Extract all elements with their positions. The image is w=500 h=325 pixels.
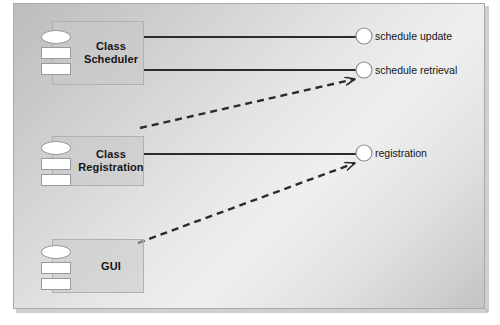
component-gui[interactable]: GUI <box>52 239 144 293</box>
component-icon-ellipse <box>41 141 71 155</box>
component-class-registration[interactable]: Class Registration <box>52 136 144 186</box>
component-icon-ellipse <box>41 245 71 259</box>
component-icon-ellipse <box>41 30 71 44</box>
component-icon <box>41 245 75 291</box>
interface-label-schedule-retrieval: schedule retrieval <box>375 64 457 76</box>
component-icon-bar-top <box>41 158 71 170</box>
component-diagram: Class Scheduler Class Registration GUI s… <box>0 0 500 325</box>
component-icon-bar-top <box>41 47 71 59</box>
component-label: GUI <box>75 260 121 273</box>
interface-ball-schedule-retrieval[interactable] <box>356 62 372 78</box>
interface-ball-schedule-update[interactable] <box>356 28 372 44</box>
component-icon <box>41 141 75 187</box>
interface-label-schedule-update: schedule update <box>375 30 452 42</box>
component-class-scheduler[interactable]: Class Scheduler <box>52 21 144 85</box>
dependency-registration-to-schedule-retrieval <box>140 79 355 128</box>
component-icon-bar-bottom <box>41 278 71 290</box>
interface-label-registration: registration <box>375 147 427 159</box>
component-icon-bar-top <box>41 262 71 274</box>
dependency-gui-to-registration <box>138 163 355 243</box>
interface-ball-registration[interactable] <box>356 145 372 161</box>
component-icon <box>41 30 75 76</box>
component-icon-bar-bottom <box>41 174 71 186</box>
component-icon-bar-bottom <box>41 63 71 75</box>
